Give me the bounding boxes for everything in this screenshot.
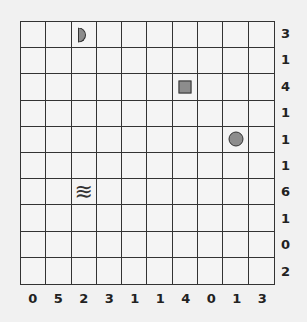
grid-cell[interactable] [147, 127, 172, 153]
grid-cell[interactable] [21, 74, 46, 100]
grid-cell[interactable] [122, 101, 147, 127]
grid-cell[interactable] [72, 205, 97, 231]
grid-cell[interactable] [21, 258, 46, 284]
grid-cell[interactable] [97, 179, 122, 205]
grid-cell[interactable] [97, 153, 122, 179]
grid-cell[interactable] [249, 22, 274, 48]
grid-cell[interactable] [147, 205, 172, 231]
grid-cell[interactable] [46, 127, 71, 153]
grid-cell[interactable] [97, 205, 122, 231]
grid-cell[interactable] [223, 179, 248, 205]
grid-cell[interactable] [249, 179, 274, 205]
grid-cell[interactable] [147, 232, 172, 258]
grid-cell[interactable] [198, 205, 223, 231]
grid-cell[interactable] [147, 153, 172, 179]
grid-cell[interactable] [97, 74, 122, 100]
grid-cell[interactable] [122, 179, 147, 205]
grid-cell[interactable] [173, 101, 198, 127]
grid-cell[interactable] [122, 258, 147, 284]
grid-cell[interactable] [147, 48, 172, 74]
grid-cell[interactable] [21, 22, 46, 48]
grid-cell[interactable] [72, 258, 97, 284]
grid-cell[interactable] [173, 127, 198, 153]
grid-cell[interactable] [198, 74, 223, 100]
grid-cell[interactable] [147, 101, 172, 127]
grid-cell[interactable] [173, 179, 198, 205]
grid-cell[interactable] [21, 127, 46, 153]
grid-cell[interactable] [97, 258, 122, 284]
grid-cell[interactable] [21, 232, 46, 258]
grid-cell[interactable] [173, 22, 198, 48]
grid-cell[interactable] [147, 22, 172, 48]
grid-cell[interactable] [122, 74, 147, 100]
grid-cell[interactable] [173, 153, 198, 179]
grid-cell[interactable] [97, 232, 122, 258]
grid-cell[interactable] [173, 232, 198, 258]
grid-cell[interactable] [97, 48, 122, 74]
grid-cell[interactable] [198, 48, 223, 74]
grid-cell[interactable] [198, 101, 223, 127]
grid-cell[interactable] [223, 258, 248, 284]
grid-cell[interactable] [97, 22, 122, 48]
grid-cell[interactable] [249, 232, 274, 258]
grid-cell[interactable] [173, 74, 198, 100]
grid-cell[interactable] [147, 74, 172, 100]
grid-cell[interactable] [122, 127, 147, 153]
grid-cell[interactable] [249, 48, 274, 74]
grid-cell[interactable] [46, 22, 71, 48]
grid-cell[interactable] [122, 153, 147, 179]
grid-cell[interactable] [72, 153, 97, 179]
grid-cell[interactable] [72, 22, 97, 48]
grid-cell[interactable] [97, 101, 122, 127]
grid-cell[interactable] [173, 205, 198, 231]
grid-cell[interactable] [21, 101, 46, 127]
grid-cell[interactable] [72, 232, 97, 258]
grid-cell[interactable] [147, 179, 172, 205]
grid-cell[interactable] [122, 48, 147, 74]
grid-cell[interactable] [223, 153, 248, 179]
grid-cell[interactable] [72, 127, 97, 153]
grid-cell[interactable] [122, 232, 147, 258]
grid-cell[interactable] [122, 22, 147, 48]
grid-cell[interactable] [46, 258, 71, 284]
grid-cell[interactable] [72, 74, 97, 100]
grid-cell[interactable] [198, 258, 223, 284]
grid-cell[interactable] [223, 74, 248, 100]
grid-cell[interactable] [21, 205, 46, 231]
grid-cell[interactable] [249, 74, 274, 100]
grid-cell[interactable] [46, 232, 71, 258]
grid-cell[interactable]: ≋ [72, 179, 97, 205]
grid-cell[interactable] [46, 179, 71, 205]
grid-cell[interactable] [21, 48, 46, 74]
grid-cell[interactable] [173, 258, 198, 284]
grid-cell[interactable] [223, 205, 248, 231]
grid-cell[interactable] [223, 22, 248, 48]
grid-cell[interactable] [72, 48, 97, 74]
grid-cell[interactable] [46, 205, 71, 231]
grid-cell[interactable] [122, 205, 147, 231]
grid-cell[interactable] [46, 101, 71, 127]
grid-cell[interactable] [21, 179, 46, 205]
grid-cell[interactable] [46, 74, 71, 100]
grid-cell[interactable] [173, 48, 198, 74]
grid-cell[interactable] [46, 153, 71, 179]
grid-cell[interactable] [249, 258, 274, 284]
grid-cell[interactable] [198, 22, 223, 48]
grid-cell[interactable] [198, 179, 223, 205]
grid-cell[interactable] [223, 232, 248, 258]
grid-cell[interactable] [249, 101, 274, 127]
grid-cell[interactable] [198, 153, 223, 179]
grid-cell[interactable] [223, 127, 248, 153]
grid-cell[interactable] [147, 258, 172, 284]
grid-cell[interactable] [97, 127, 122, 153]
grid-cell[interactable] [46, 48, 71, 74]
grid-cell[interactable] [249, 127, 274, 153]
grid-cell[interactable] [249, 153, 274, 179]
grid-cell[interactable] [198, 127, 223, 153]
grid-cell[interactable] [223, 101, 248, 127]
grid-cell[interactable] [21, 153, 46, 179]
grid-cell[interactable] [198, 232, 223, 258]
grid-cell[interactable] [249, 205, 274, 231]
grid-cell[interactable] [72, 101, 97, 127]
grid-cell[interactable] [223, 48, 248, 74]
